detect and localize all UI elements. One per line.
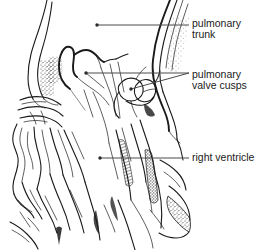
- right-lower-chamber: [94, 160, 191, 250]
- pulmonary-trunk-wall: [153, 0, 189, 160]
- lower-left-trabeculae: [10, 174, 100, 249]
- hatched-trabecula: [119, 140, 133, 186]
- leader-dot-right-ventricle: [98, 156, 101, 159]
- leader-dot-valve-cusps-branch: [129, 87, 132, 90]
- leader-right-ventricle: [98, 156, 189, 159]
- label-right-ventricle-line1: right ventricle: [192, 151, 255, 163]
- label-right-ventricle: right ventricle: [192, 151, 255, 163]
- label-pulmonary-valve-cusps: pulmonary valve cusps: [192, 68, 247, 91]
- left-trabeculae: [13, 124, 85, 194]
- leader-dot-valve-cusps: [84, 71, 87, 74]
- left-vessel-outline: [28, 0, 58, 108]
- right-ventricle-wall: [109, 120, 162, 228]
- left-wall-ridges: [18, 97, 63, 127]
- anatomy-figure: pulmonary trunk pulmonary valve cusps ri…: [0, 0, 263, 250]
- leader-dot-pulmonary-trunk: [95, 23, 98, 26]
- label-pulmonary-trunk-line2: trunk: [192, 28, 216, 40]
- label-valve-cusps-line2: valve cusps: [192, 79, 247, 91]
- left-stipple-band: [47, 57, 63, 85]
- label-pulmonary-trunk: pulmonary trunk: [192, 17, 242, 40]
- cut-muscle-wedge: [167, 196, 191, 232]
- ventricle-cut-edge: [59, 47, 128, 89]
- leader-pulmonary-valve-cusps: [84, 71, 189, 90]
- anatomy-illustration: pulmonary trunk pulmonary valve cusps ri…: [0, 0, 263, 250]
